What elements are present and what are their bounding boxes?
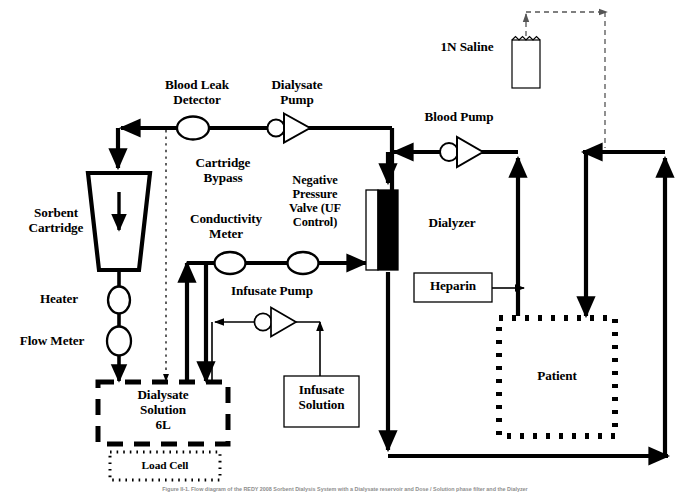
label-dialysate-solution: Dialysate Solution 6L bbox=[98, 388, 228, 432]
dialysis-flow-diagram: Sorbent Cartridge Blood Leak Detector Di… bbox=[0, 0, 682, 498]
label-cartridge-bypass: Cartridge Bypass bbox=[172, 156, 274, 186]
label-blood-pump: Blood Pump bbox=[404, 110, 514, 125]
label-infusate-pump: Infusate Pump bbox=[208, 284, 336, 299]
conductivity-meter-icon bbox=[215, 252, 246, 274]
label-dialyzer: Dialyzer bbox=[410, 216, 494, 231]
label-heater: Heater bbox=[22, 292, 96, 307]
label-patient: Patient bbox=[499, 369, 615, 384]
heater-icon bbox=[108, 287, 130, 314]
label-conductivity-meter: Conductivity Meter bbox=[170, 212, 282, 242]
label-blood-leak-detector: Blood Leak Detector bbox=[136, 78, 258, 108]
infusate-pump-icon bbox=[254, 308, 296, 337]
label-sorbent-cartridge: Sorbent Cartridge bbox=[2, 206, 110, 236]
label-negative-pressure-valve: Negative Pressure Valve (UF Control) bbox=[272, 174, 358, 230]
blood-pump-icon bbox=[440, 137, 483, 167]
label-saline: 1N Saline bbox=[427, 40, 507, 55]
label-heparin: Heparin bbox=[414, 279, 492, 294]
dialysate-pump-icon bbox=[267, 114, 310, 143]
label-flow-meter: Flow Meter bbox=[6, 334, 98, 349]
blood-leak-detector-icon bbox=[177, 117, 209, 140]
figure-caption: Figure II-1. Flow diagram of the REDY 20… bbox=[30, 487, 660, 493]
dialyzer-shape bbox=[366, 190, 398, 270]
label-load-cell: Load Cell bbox=[110, 459, 220, 472]
label-infusate-solution: Infusate Solution bbox=[284, 383, 359, 413]
label-dialysate-pump: Dialysate Pump bbox=[252, 78, 342, 108]
flow-meter-icon bbox=[107, 327, 131, 356]
saline-bag-shape bbox=[512, 37, 540, 89]
negative-pressure-valve-icon bbox=[288, 252, 319, 274]
